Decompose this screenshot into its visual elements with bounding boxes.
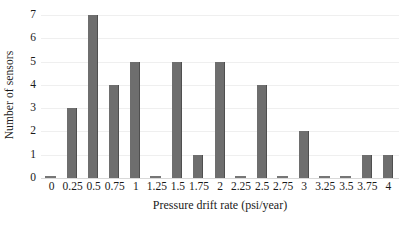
- x-axis-tick-labels: 00.250.50.7511.251.51.7522.252.52.7533.2…: [41, 180, 399, 197]
- bar: [277, 176, 288, 178]
- bar-slot: [316, 15, 335, 178]
- y-tick-label-5: 5: [30, 56, 36, 68]
- x-axis-title: Pressure drift rate (psi/year): [41, 198, 399, 213]
- bar: [88, 15, 98, 178]
- bar: [193, 155, 203, 178]
- bar-slot: [147, 15, 166, 178]
- y-tick-label-4: 4: [30, 79, 36, 91]
- bar-slot: [274, 15, 293, 178]
- bar-slot: [42, 15, 61, 178]
- bar-slot: [189, 15, 208, 178]
- y-tick-label-6: 6: [30, 33, 36, 45]
- plot-area: [41, 15, 399, 178]
- bar: [235, 176, 246, 178]
- bar: [172, 62, 182, 178]
- bar: [340, 176, 351, 178]
- bar-slot: [232, 15, 251, 178]
- bar: [383, 155, 393, 178]
- y-tick-label-3: 3: [30, 102, 36, 114]
- bar: [109, 85, 119, 178]
- bar-slot: [126, 15, 145, 178]
- bar-slot: [358, 15, 377, 178]
- bar: [319, 176, 330, 178]
- bar-slot: [63, 15, 82, 178]
- y-tick-label-2: 2: [30, 126, 36, 138]
- bar: [362, 155, 372, 178]
- gridline-0: [41, 178, 399, 179]
- bar-chart-figure: Number of sensors 01234567 00.250.50.751…: [0, 0, 410, 229]
- x-tick-label-4: 4: [368, 180, 408, 193]
- bar: [215, 62, 225, 178]
- bar: [130, 62, 140, 178]
- y-axis-tick-labels: 01234567: [18, 0, 40, 190]
- bar: [299, 131, 309, 178]
- y-axis-title: Number of sensors: [0, 0, 18, 190]
- y-tick-label-1: 1: [30, 149, 36, 161]
- bar-slot: [211, 15, 230, 178]
- bar: [257, 85, 267, 178]
- bar-slot: [168, 15, 187, 178]
- bars-layer: [41, 15, 399, 178]
- bar-slot: [105, 15, 124, 178]
- y-axis-title-label: Number of sensors: [3, 51, 15, 140]
- y-tick-label-7: 7: [30, 9, 36, 21]
- bar: [150, 176, 161, 178]
- bar-slot: [379, 15, 398, 178]
- bar-slot: [295, 15, 314, 178]
- bar: [45, 176, 56, 178]
- bar-slot: [253, 15, 272, 178]
- bar-slot: [84, 15, 103, 178]
- bar-slot: [337, 15, 356, 178]
- bar: [67, 108, 77, 178]
